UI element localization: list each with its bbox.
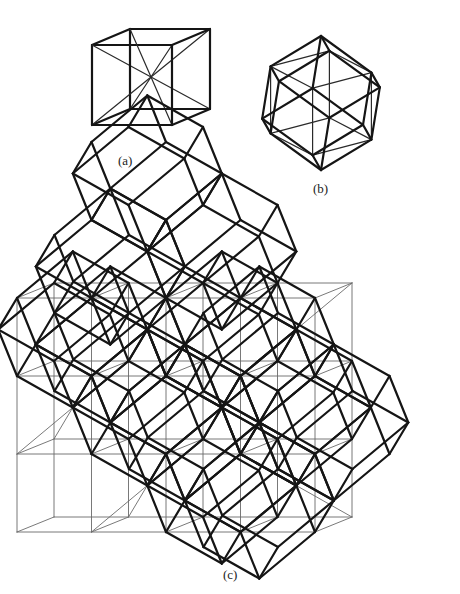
cube-edge	[172, 29, 210, 45]
inner-cube-edge	[271, 51, 330, 67]
dodecahedron-edge	[278, 330, 297, 362]
dodecahedron-edge	[185, 501, 204, 548]
dodecahedron-edge	[203, 408, 222, 440]
label-a: (a)	[118, 153, 132, 169]
dodecahedron-edge	[321, 140, 371, 170]
dodecahedron-edge	[110, 189, 129, 236]
dodecahedron-edge	[203, 439, 259, 471]
dodecahedron-edge	[241, 423, 260, 455]
cube-edge	[92, 109, 130, 125]
dodecahedron-edge	[147, 298, 166, 330]
dodecahedron-edge	[166, 267, 185, 299]
dodecahedron-edge	[222, 174, 241, 221]
dodecahedron-edge	[166, 532, 222, 564]
inner-cube-edge	[313, 140, 372, 156]
dodecahedron-edge	[166, 298, 222, 330]
cube-edge	[172, 109, 210, 125]
dodecahedron-edge	[259, 423, 278, 470]
dodecahedron-edge	[129, 235, 185, 267]
dodecahedron-edge	[271, 36, 321, 66]
dodecahedron-edge	[129, 469, 185, 501]
dodecahedron-edge	[278, 469, 334, 501]
dodecahedron-edge	[110, 391, 129, 423]
dodecahedron-edge	[334, 469, 353, 501]
dodecahedron-edge	[203, 283, 259, 315]
dodecahedron-edge	[296, 298, 315, 330]
dodecahedron-edge	[147, 220, 166, 252]
dodecahedron-edge	[313, 88, 363, 125]
dodecahedron-edge	[321, 36, 371, 73]
dodecahedron-edge	[353, 391, 409, 423]
dodecahedron-edge	[129, 127, 185, 159]
dodecahedron-edge	[185, 313, 204, 345]
dodecahedron-edge	[55, 313, 111, 345]
dodecahedron-edge	[36, 267, 92, 299]
dodecahedron-edge	[296, 330, 352, 362]
dodecahedron-edge	[279, 51, 329, 81]
dodecahedron-edge	[279, 81, 329, 118]
dodecahedron-edge	[334, 345, 353, 392]
dodecahedron-edge	[278, 313, 334, 345]
dodecahedron-edge	[203, 174, 222, 206]
rhombic-dodecahedron-figure	[0, 0, 460, 594]
dodecahedron-edge	[92, 220, 148, 252]
dodecahedron-edge	[278, 486, 297, 518]
dodecahedron-edge	[129, 313, 185, 345]
label-b: (b)	[313, 181, 328, 197]
dodecahedron-edge	[315, 501, 334, 533]
dodecahedron-edge	[147, 96, 166, 143]
panel-b-rhombic-dodecahedron	[262, 36, 380, 170]
dodecahedron-edge	[241, 454, 297, 486]
lattice-edge	[315, 283, 352, 298]
dodecahedron-edge	[390, 423, 409, 455]
lattice-edge	[17, 439, 54, 454]
dodecahedron-edge	[262, 66, 270, 118]
dodecahedron-edge	[73, 376, 92, 408]
dodecahedron-edge	[147, 486, 166, 533]
dodecahedron-edge	[262, 88, 312, 118]
panel-a-cube-diagonals	[92, 29, 210, 125]
dodecahedron-edge	[185, 501, 241, 533]
dodecahedron-edge	[110, 189, 166, 221]
dodecahedron-edge	[36, 345, 92, 377]
dodecahedron-edge	[259, 267, 315, 299]
dodecahedron-edge	[73, 408, 92, 455]
dodecahedron-edge	[271, 81, 279, 133]
dodecahedron-edge	[271, 133, 321, 170]
label-c: (c)	[223, 567, 237, 583]
dodecahedron-edge	[222, 408, 278, 440]
dodecahedron-edge	[390, 376, 409, 423]
dodecahedron-edge	[321, 118, 329, 170]
dodecahedron-edge	[334, 345, 390, 377]
dodecahedron-edge	[55, 391, 111, 423]
dodecahedron-edge	[222, 376, 241, 408]
dodecahedron-edge	[73, 174, 129, 206]
dodecahedron-edge	[36, 313, 55, 345]
lattice-edge	[17, 517, 54, 532]
dodecahedron-edge	[17, 376, 73, 408]
cube-edge	[92, 29, 130, 45]
dodecahedron-edge	[166, 376, 222, 408]
dodecahedron-edge	[315, 376, 371, 408]
dodecahedron-edge	[110, 267, 166, 299]
dodecahedron-edge	[147, 252, 203, 284]
panel-c-dodecahedra-tiling	[0, 96, 408, 579]
dodecahedron-edge	[315, 298, 334, 345]
dodecahedron-edge	[313, 36, 321, 88]
dodecahedron-edge	[259, 391, 278, 423]
dodecahedron-edge	[36, 235, 55, 267]
dodecahedron-edge	[36, 345, 55, 392]
dodecahedron-edge	[241, 267, 260, 299]
dodecahedron-edge	[371, 87, 379, 139]
dodecahedron-edge	[184, 127, 203, 159]
dodecahedron-edge	[222, 174, 278, 206]
dodecahedron-edge	[129, 96, 148, 128]
dodecahedron-edge	[147, 454, 166, 486]
dodecahedron-edge	[129, 330, 148, 362]
dodecahedron-edge	[147, 330, 203, 362]
dodecahedron-edge	[204, 391, 260, 423]
dodecahedron-edge	[352, 408, 371, 440]
dodecahedron-edge	[92, 189, 111, 221]
dodecahedron-edge	[241, 220, 297, 252]
dodecahedron-edge	[203, 205, 259, 237]
